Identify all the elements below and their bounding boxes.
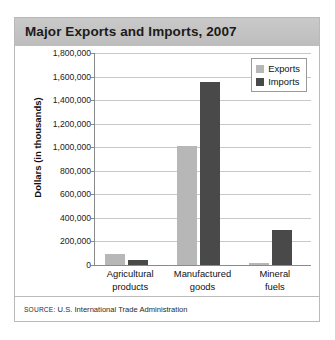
y-axis-tick-label: 1,200,000 (53, 119, 91, 128)
category-label-line: goods (166, 281, 238, 294)
y-axis-tick-labels: 1,800,0001,600,0001,400,0001,200,0001,00… (37, 53, 91, 265)
category-label-line: fuels (239, 281, 311, 294)
page-title: Major Exports and Imports, 2007 (25, 24, 237, 39)
y-axis-tick-label: 1,600,000 (53, 72, 91, 81)
bar-group (167, 53, 239, 265)
bar-exports (177, 146, 197, 265)
y-axis-tick-label: 1,800,000 (53, 49, 91, 58)
y-axis-tick-mark (91, 265, 95, 266)
y-axis-tick-label: 400,000 (60, 214, 91, 223)
bar-imports (128, 260, 148, 265)
plot-area-wrapper: Dollars (in thousands) 1,800,0001,600,00… (15, 46, 319, 295)
source-value: U.S. International Trade Administration (55, 305, 187, 314)
category-label-line: Agricultural (94, 268, 166, 281)
bar-group (95, 53, 167, 265)
legend-swatch-icon (256, 78, 264, 86)
source-note: SOURCE: U.S. International Trade Adminis… (24, 305, 188, 314)
category-label-line: Mineral (239, 268, 311, 281)
bar-imports (272, 230, 292, 265)
chart-legend: ExportsImports (251, 58, 307, 92)
category-label-line: Manufactured (166, 268, 238, 281)
x-axis-category-label: Agriculturalproducts (94, 268, 166, 293)
y-axis-tick-label: 600,000 (60, 190, 91, 199)
legend-label: Exports (268, 63, 300, 74)
chart-title-band: Major Exports and Imports, 2007 (15, 18, 319, 46)
x-axis-category-label: Mineralfuels (239, 268, 311, 293)
x-axis-category-labels: AgriculturalproductsManufacturedgoodsMin… (94, 268, 311, 304)
bar-exports (249, 263, 269, 265)
y-axis-tick-label: 200,000 (60, 237, 91, 246)
legend-item-imports: Imports (256, 75, 300, 88)
source-divider (15, 296, 319, 297)
bar-imports (200, 82, 220, 265)
y-axis-tick-label: 1,400,000 (53, 96, 91, 105)
legend-swatch-icon (256, 65, 264, 73)
legend-item-exports: Exports (256, 62, 300, 75)
y-axis-tick-label: 1,000,000 (53, 143, 91, 152)
x-axis-line (95, 265, 311, 266)
x-axis-category-label: Manufacturedgoods (166, 268, 238, 293)
legend-label: Imports (268, 76, 299, 87)
y-axis-tick-label: 800,000 (60, 166, 91, 175)
source-label: SOURCE: (24, 306, 55, 313)
bar-exports (105, 254, 125, 265)
chart-figure: Major Exports and Imports, 2007 Dollars … (14, 17, 320, 322)
category-label-line: products (94, 281, 166, 294)
